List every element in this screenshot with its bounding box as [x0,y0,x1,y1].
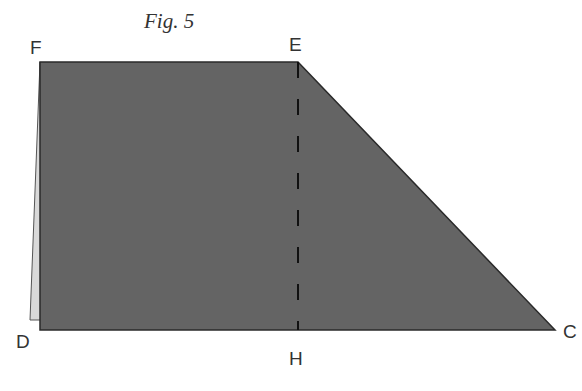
label-H: H [289,348,303,369]
figure-title: Fig. 5 [143,9,194,33]
label-C: C [563,321,577,342]
figure-canvas: Fig. 5 F E C D H [0,0,582,391]
label-F: F [30,37,42,58]
label-E: E [289,34,302,55]
label-D: D [16,331,30,352]
